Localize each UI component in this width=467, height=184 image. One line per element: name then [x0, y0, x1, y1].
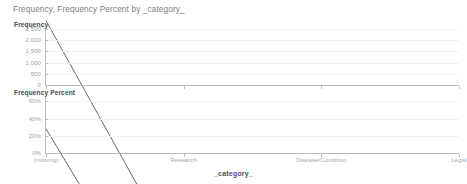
x-tick-mark	[46, 154, 47, 157]
y-tick-label: 1,500	[25, 48, 41, 54]
y-tick-label: 0	[38, 82, 41, 88]
y-tick-mark	[45, 40, 48, 41]
y-tick-label: 0%	[32, 150, 41, 156]
frequency-percent-plot-area	[46, 97, 459, 153]
x-axis-title: _category_	[0, 170, 467, 177]
frequency-plot-area	[46, 29, 459, 85]
x-tick-mark	[459, 86, 460, 89]
y-tick-mark	[45, 136, 48, 137]
page-title: Frequency, Frequency Percent by _categor…	[13, 5, 185, 14]
gridline	[46, 101, 459, 102]
frequency-percent-panel: 0%20%40%60%	[0, 97, 467, 153]
category-tick-label: Legal	[451, 157, 466, 163]
frequency-x-axis-line	[45, 85, 459, 86]
x-tick-mark	[46, 86, 47, 89]
frequency-y-axis-line	[45, 29, 46, 85]
gridline	[46, 119, 459, 120]
y-tick-mark	[45, 101, 48, 102]
gridline	[46, 136, 459, 137]
gridline	[46, 29, 459, 30]
category-tick-label: Research	[170, 157, 196, 163]
y-tick-label: 500	[31, 71, 41, 77]
category-tick-label: Disease/Condition	[296, 157, 346, 163]
y-tick-label: 2,000	[25, 37, 41, 43]
frequency-percent-axis-title: Frequency Percent	[14, 89, 75, 96]
y-tick-mark	[45, 119, 48, 120]
x-tick-mark	[184, 154, 185, 157]
y-tick-label: 20%	[29, 133, 41, 139]
frequency-percent-y-axis-line	[45, 97, 46, 153]
category-axis-labels: (missing)ResearchDisease/ConditionLegal	[0, 157, 467, 167]
frequency-panel: 05001,0001,5002,0002,500	[0, 29, 467, 85]
x-tick-mark	[459, 154, 460, 157]
y-tick-mark	[45, 63, 48, 64]
x-tick-mark	[184, 86, 185, 89]
x-tick-mark	[321, 86, 322, 89]
y-tick-mark	[45, 51, 48, 52]
y-tick-mark	[45, 29, 48, 30]
gridline	[46, 40, 459, 41]
category-tick-label: (missing)	[33, 157, 58, 163]
y-tick-label: 60%	[29, 98, 41, 104]
frequency-percent-x-axis-line	[45, 153, 459, 154]
y-tick-label: 2,500	[25, 26, 41, 32]
chart-canvas: Frequency, Frequency Percent by _categor…	[0, 0, 467, 184]
y-tick-label: 40%	[29, 116, 41, 122]
x-tick-mark	[321, 154, 322, 157]
frequency-tick-labels: 05001,0001,5002,0002,500	[8, 29, 41, 85]
gridline	[46, 74, 459, 75]
y-tick-label: 1,000	[25, 60, 41, 66]
gridline	[46, 63, 459, 64]
y-tick-mark	[45, 74, 48, 75]
gridline	[46, 51, 459, 52]
frequency-percent-tick-labels: 0%20%40%60%	[8, 97, 41, 153]
